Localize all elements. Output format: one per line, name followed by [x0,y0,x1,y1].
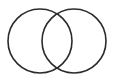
venn-diagram [0,0,114,78]
left-set-circle [8,9,72,73]
right-set-circle [42,9,106,73]
